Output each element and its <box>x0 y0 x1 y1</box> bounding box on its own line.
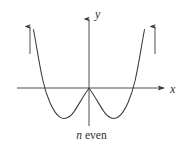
graph-canvas <box>0 0 183 149</box>
figure-caption: n even <box>0 130 183 142</box>
polynomial-graph-figure: y x n even <box>0 0 183 149</box>
x-axis-label: x <box>170 83 175 95</box>
caption-text: even <box>82 129 107 141</box>
y-axis-label: y <box>95 8 100 20</box>
